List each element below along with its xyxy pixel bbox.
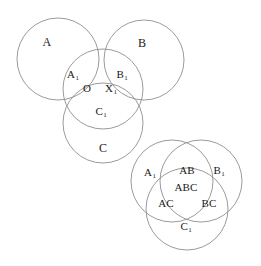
label-X1: X1 [105,83,117,94]
label-C1: C1 [95,106,106,117]
label-B1: B1 [213,165,224,176]
venn-circles-svg [0,0,261,266]
label-AB: AB [179,165,195,176]
venn-diagram-figure: ABA1B1OX1C1C A1ABB1ABCACBCC1 [0,0,261,266]
label-AC: AC [158,198,174,209]
label-B: B [138,37,146,49]
label-B1: B1 [116,69,127,80]
label-ABC: ABC [174,182,197,193]
label-A1: A1 [144,167,156,178]
right-diagram-circles [131,140,242,250]
label-A: A [43,36,52,48]
label-C1: C1 [180,221,191,232]
label-BC: BC [201,198,216,209]
label-A1: A1 [67,69,79,80]
label-C: C [99,142,107,154]
label-O: O [83,83,91,94]
